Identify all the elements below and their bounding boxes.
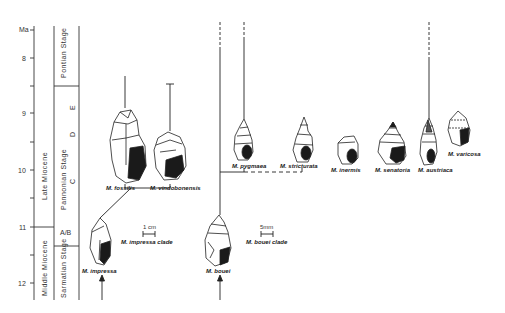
shell-varicosa bbox=[448, 111, 470, 146]
scale-label-impressa: 1 cm bbox=[143, 224, 156, 230]
zone-c: C bbox=[69, 179, 76, 184]
label-impressa: M. impressa bbox=[82, 268, 117, 274]
tick-label-12: 12 bbox=[18, 280, 26, 287]
zone-ab: A/B bbox=[60, 229, 72, 236]
label-pygmaea: M. pygmaea bbox=[232, 163, 267, 169]
lineage-lines bbox=[100, 22, 430, 300]
shell-impressa bbox=[90, 218, 111, 265]
stage-pannonian: Pannonian Stage bbox=[60, 149, 68, 210]
shell-senatoria bbox=[378, 122, 406, 164]
zone-e: E bbox=[69, 105, 76, 110]
label-bouei: M. bouei bbox=[206, 268, 231, 274]
label-austriaca: M. austriaca bbox=[418, 167, 453, 173]
label-varicosa: M. varicosa bbox=[448, 151, 481, 157]
epoch-late-miocene: Late Miocene bbox=[41, 152, 48, 200]
label-vindobonensis: M. vindobonensis bbox=[150, 185, 201, 191]
scale-label-bouei: 5mm bbox=[260, 224, 273, 230]
label-senatoria: M. senatoria bbox=[375, 167, 411, 173]
stage-sarmatian: Sarmatian Stage bbox=[60, 238, 68, 298]
time-scale bbox=[30, 26, 79, 300]
shell-bouei bbox=[205, 215, 231, 266]
stage-pontian: Pontian Stage bbox=[60, 28, 68, 78]
tick-label-8: 8 bbox=[22, 55, 26, 62]
scale-bar-bouei bbox=[261, 231, 273, 237]
tick-label-10: 10 bbox=[18, 167, 26, 174]
clade-label-bouei: M. bouei clade bbox=[246, 239, 288, 245]
shell-austriaca bbox=[420, 118, 437, 165]
clade-label-impressa: M. impressa clade bbox=[121, 239, 173, 245]
shell-stricturata bbox=[293, 117, 313, 162]
tick-label-11: 11 bbox=[19, 224, 26, 231]
shell-vindobonensis bbox=[154, 132, 186, 180]
zone-d: D bbox=[69, 132, 76, 137]
shell-pygmaea bbox=[234, 119, 253, 160]
shell-inermis bbox=[338, 136, 358, 164]
label-fossilis: M. fossilis bbox=[106, 185, 136, 191]
shell-fossilis bbox=[110, 110, 146, 183]
tick-label-9: 9 bbox=[22, 110, 26, 117]
axis-unit-label: Ma bbox=[19, 26, 29, 33]
label-stricturata: M. stricturata bbox=[280, 163, 318, 169]
scale-bar-impressa bbox=[143, 231, 155, 237]
label-inermis: M. inermis bbox=[331, 167, 361, 173]
epoch-middle-miocene: Middle Miocene bbox=[41, 240, 48, 296]
phylogeny-diagram: Ma 8 9 10 11 12 Late Miocene Middle Mioc… bbox=[0, 0, 505, 313]
